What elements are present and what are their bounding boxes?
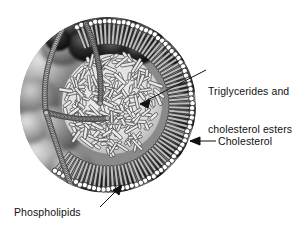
label-cholesterol: Cholesterol: [218, 135, 272, 148]
arrowhead-cholesterol: [190, 137, 200, 145]
lipoprotein-figure: Triglycerides and cholesterol esters Cho…: [0, 0, 303, 234]
label-phospholipids: Phospholipids: [14, 206, 81, 219]
particle-body: [12, 6, 200, 193]
label-triglycerides-line2: cholesterol esters: [208, 123, 292, 136]
label-triglycerides-line1: Triglycerides and: [208, 85, 292, 98]
